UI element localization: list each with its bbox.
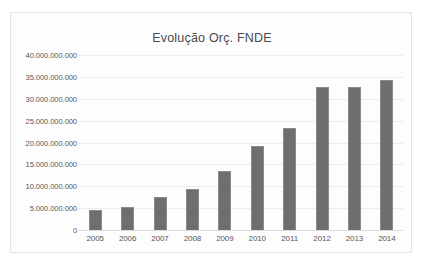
axis-zero-line [79, 230, 403, 231]
bar-slot [209, 55, 241, 230]
y-axis-tick-label: 20.000.000.000 [26, 138, 77, 147]
bar-slot [241, 55, 273, 230]
y-axis: 40.000.000.000 35.000.000.000 30.000.000… [21, 55, 77, 230]
x-axis-tick-label: 2009 [209, 234, 241, 243]
bar-slot [111, 55, 143, 230]
chart-title: Evolução Orç. FNDE [11, 31, 413, 45]
bar-slot [176, 55, 208, 230]
x-axis-tick-label: 2006 [111, 234, 143, 243]
plot-area [79, 55, 403, 230]
y-axis-tick-label: 40.000.000.000 [26, 51, 77, 60]
x-axis-tick-label: 2007 [144, 234, 176, 243]
x-axis: 2005 2006 2007 2008 2009 2010 2011 2012 … [79, 234, 403, 243]
bar-2012 [316, 87, 329, 230]
y-axis-tick-label: 30.000.000.000 [26, 94, 77, 103]
bar-2014 [380, 80, 393, 230]
bar-slot [79, 55, 111, 230]
bar-series [79, 55, 403, 230]
bar-2008 [186, 189, 199, 230]
x-axis-tick-label: 2008 [176, 234, 208, 243]
bar-slot [144, 55, 176, 230]
screenshot-canvas: Evolução Orç. FNDE 40.000.000.000 35.000… [0, 0, 424, 264]
x-axis-tick-label: 2011 [273, 234, 305, 243]
bar-slot [306, 55, 338, 230]
y-axis-tick-label: 15.000.000.000 [26, 160, 77, 169]
bar-2009 [218, 171, 231, 230]
bar-2011 [283, 128, 296, 230]
y-axis-tick-label: 5.000.000.000 [30, 204, 77, 213]
bar-2005 [89, 210, 102, 230]
y-axis-tick-label: 25.000.000.000 [26, 116, 77, 125]
x-axis-tick-label: 2014 [371, 234, 403, 243]
x-axis-tick-label: 2013 [338, 234, 370, 243]
bar-2013 [348, 87, 361, 231]
bar-2007 [154, 197, 167, 230]
y-axis-tick-label: 0 [73, 226, 77, 235]
y-axis-tick-label: 35.000.000.000 [26, 72, 77, 81]
bar-2010 [251, 146, 264, 230]
bar-slot [338, 55, 370, 230]
x-axis-tick-label: 2005 [79, 234, 111, 243]
y-axis-tick-label: 10.000.000.000 [26, 182, 77, 191]
bar-slot [371, 55, 403, 230]
chart-frame: Evolução Orç. FNDE 40.000.000.000 35.000… [10, 12, 412, 253]
bar-slot [273, 55, 305, 230]
x-axis-tick-label: 2012 [306, 234, 338, 243]
bar-2006 [121, 207, 134, 230]
x-axis-tick-label: 2010 [241, 234, 273, 243]
